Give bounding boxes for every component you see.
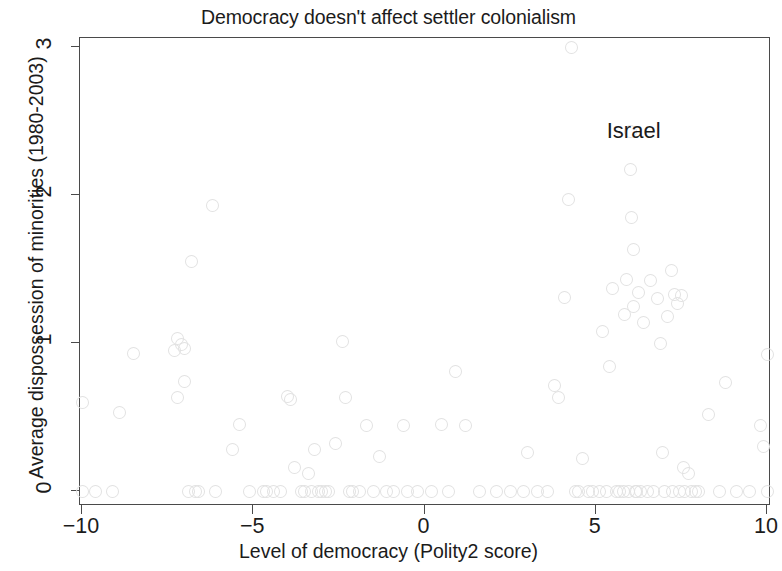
scatter-point	[319, 482, 337, 500]
scatter-point	[364, 482, 382, 500]
scatter-point	[710, 482, 728, 500]
scatter-point	[619, 482, 637, 500]
scatter-point	[556, 288, 574, 306]
y-tick-mark	[71, 46, 79, 47]
scatter-point	[580, 482, 598, 500]
scatter-point	[432, 415, 450, 433]
scatter-point	[309, 482, 327, 500]
scatter-point	[653, 443, 671, 461]
scatter-point	[350, 482, 368, 500]
scatter-point	[357, 417, 375, 435]
scatter-point	[686, 482, 704, 500]
scatter-point	[515, 482, 533, 500]
scatter-point	[371, 448, 389, 466]
scatter-point	[758, 346, 776, 364]
scatter-point	[624, 241, 642, 259]
scatter-point	[254, 482, 272, 500]
scatter-point	[658, 307, 676, 325]
scatter-point	[717, 374, 735, 392]
y-tick-mark	[71, 194, 79, 195]
scatter-point	[741, 482, 759, 500]
scatter-point	[631, 482, 649, 500]
scatter-point	[241, 482, 259, 500]
scatter-point	[559, 190, 577, 208]
scatter-point	[169, 329, 187, 347]
scatter-point	[446, 362, 464, 380]
scatter-point	[189, 482, 207, 500]
plot-area-frame	[79, 37, 770, 505]
scatter-point	[549, 389, 567, 407]
scatter-point	[86, 482, 104, 500]
scatter-point	[398, 482, 416, 500]
scatter-point	[384, 482, 402, 500]
scatter-point	[172, 335, 190, 353]
scatter-point	[271, 482, 289, 500]
scatter-point	[751, 417, 769, 435]
scatter-point	[569, 482, 587, 500]
scatter-point	[655, 482, 673, 500]
scatter-point	[343, 482, 361, 500]
scatter-points-layer	[80, 38, 769, 504]
x-tick-mark	[424, 505, 425, 514]
scatter-point	[672, 286, 690, 304]
scatter-point	[73, 393, 91, 411]
scatter-point	[616, 306, 634, 324]
scatter-point	[73, 482, 91, 500]
scatter-point	[563, 38, 581, 56]
scatter-point	[182, 252, 200, 270]
scatter-point	[623, 208, 641, 226]
scatter-point	[104, 482, 122, 500]
scatter-point	[306, 440, 324, 458]
scatter-point	[378, 482, 396, 500]
scatter-point	[230, 415, 248, 433]
x-tick-mark	[595, 505, 596, 514]
scatter-point	[758, 482, 776, 500]
x-tick-label: −5	[217, 514, 287, 539]
scatter-point	[316, 482, 334, 500]
scatter-point	[110, 403, 128, 421]
scatter-point	[295, 482, 313, 500]
scatter-point	[593, 322, 611, 340]
scatter-point	[674, 458, 692, 476]
scatter-point	[662, 261, 680, 279]
y-tick-mark	[71, 342, 79, 343]
x-tick-label: −10	[46, 514, 116, 539]
scatter-point	[629, 283, 647, 301]
scatter-point	[727, 482, 745, 500]
scatter-point	[487, 482, 505, 500]
scatter-point	[645, 482, 663, 500]
scatter-point	[179, 482, 197, 500]
scatter-point	[682, 482, 700, 500]
scatter-point	[664, 482, 682, 500]
x-tick-mark	[81, 505, 82, 514]
scatter-point	[439, 482, 457, 500]
scatter-point	[186, 482, 204, 500]
y-tick-mark	[71, 490, 79, 491]
scatter-point	[165, 341, 183, 359]
scatter-point	[754, 437, 772, 455]
y-tick-label: 2	[32, 172, 57, 212]
scatter-point	[539, 482, 557, 500]
scatter-point	[278, 387, 296, 405]
x-tick-label: 10	[731, 514, 782, 539]
x-tick-mark	[252, 505, 253, 514]
scatter-point	[665, 285, 683, 303]
scatter-point	[340, 482, 358, 500]
scatter-point	[203, 196, 221, 214]
scatter-point	[566, 482, 584, 500]
scatter-point	[614, 482, 632, 500]
scatter-point	[583, 482, 601, 500]
scatter-point	[617, 270, 635, 288]
scatter-point	[676, 482, 694, 500]
scatter-point	[669, 294, 687, 312]
scatter-point	[600, 357, 618, 375]
scatter-point	[422, 482, 440, 500]
scatter-point	[337, 389, 355, 407]
scatter-point	[408, 482, 426, 500]
y-tick-label: 3	[32, 24, 57, 64]
scatter-point	[641, 272, 659, 290]
y-axis-title: Average dispossession of minorities (198…	[25, 13, 48, 523]
scatter-point	[470, 482, 488, 500]
scatter-point	[333, 332, 351, 350]
